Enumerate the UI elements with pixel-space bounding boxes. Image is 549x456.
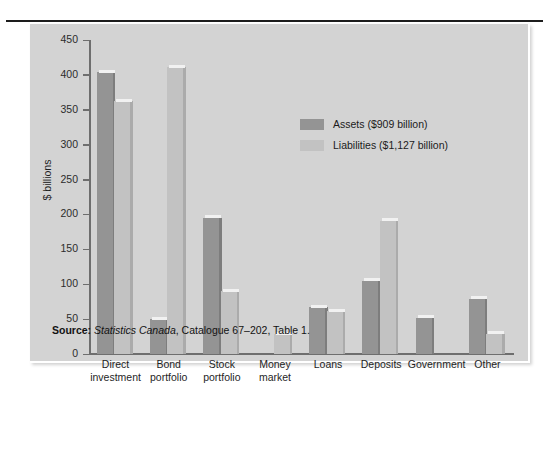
bar-liabilities <box>114 101 130 354</box>
y-tick-label: 250 <box>30 174 78 184</box>
bar-face <box>469 299 485 354</box>
bar-liabilities <box>274 334 290 354</box>
y-tick-label: 200 <box>30 208 78 218</box>
bar-top-3d <box>116 99 132 102</box>
bar-group <box>89 40 142 354</box>
bar-assets <box>256 353 272 354</box>
bar-liabilities <box>221 291 237 354</box>
bar-face <box>380 221 396 354</box>
top-horizontal-rule <box>6 20 543 22</box>
bar-face <box>362 281 378 354</box>
y-tick-label: 400 <box>30 69 78 79</box>
source-publisher: Statistics Canada <box>94 324 176 336</box>
x-category-label: Loans <box>302 358 355 371</box>
bar-top-3d <box>382 218 398 221</box>
source-rest: , Catalogue 67–202, Table 1. <box>176 324 310 336</box>
bar-group <box>142 40 195 354</box>
y-tick-label: 100 <box>30 278 78 288</box>
bar-top-3d <box>488 331 504 334</box>
bar-top-3d <box>418 315 434 318</box>
bar-liabilities <box>167 67 183 354</box>
x-category-line1: Bond <box>142 358 195 371</box>
y-tick-label: 450 <box>30 34 78 44</box>
source-label: Source: <box>52 324 91 336</box>
bar-top-3d <box>223 289 239 292</box>
y-tick-label: 50 <box>30 313 78 323</box>
bar-liabilities <box>327 311 343 354</box>
bar-side-3d <box>343 311 346 354</box>
bar-side-3d <box>183 67 186 354</box>
x-category-label: Directinvestment <box>89 358 142 383</box>
bar-assets <box>469 299 485 354</box>
bar-face <box>486 334 502 354</box>
legend-label-assets: Assets ($909 billion) <box>333 118 428 130</box>
y-axis-title: $ billions <box>41 135 53 225</box>
x-axis-category-labels: DirectinvestmentBondportfolioStockportfo… <box>89 358 514 388</box>
bar-group <box>461 40 514 354</box>
x-category-label: Government <box>408 358 461 371</box>
chart-panel: 050100150200250300350400450 $ billions D… <box>30 24 528 361</box>
bar-face <box>416 318 432 354</box>
bar-assets <box>97 72 113 354</box>
x-category-line1: Stock <box>195 358 248 371</box>
bar-liabilities <box>380 221 396 354</box>
x-category-line1: Direct <box>89 358 142 371</box>
legend-swatch-liabilities <box>300 140 324 151</box>
bar-top-3d <box>169 65 185 68</box>
bar-side-3d <box>237 291 240 354</box>
bar-side-3d <box>130 101 133 354</box>
bar-group <box>355 40 408 354</box>
x-category-label: Stockportfolio <box>195 358 248 383</box>
bar-side-3d <box>290 334 293 354</box>
bar-liabilities <box>486 334 502 354</box>
bar-group <box>248 40 301 354</box>
x-category-line1: Money <box>248 358 301 371</box>
bar-face <box>221 291 237 354</box>
x-category-line2: market <box>248 371 301 384</box>
bar-top-3d <box>471 296 487 299</box>
x-category-line1: Loans <box>302 358 355 371</box>
bar-side-3d <box>396 221 399 354</box>
x-category-line2: investment <box>89 371 142 384</box>
plot-area: 050100150200250300350400450 $ billions D… <box>30 24 528 361</box>
x-category-label: Moneymarket <box>248 358 301 383</box>
x-category-line1: Government <box>408 358 461 371</box>
bar-assets <box>362 281 378 354</box>
y-tick-label: 350 <box>30 104 78 114</box>
bar-group <box>408 40 461 354</box>
bar-face <box>97 72 113 354</box>
bar-group <box>195 40 248 354</box>
bar-top-3d <box>311 305 327 308</box>
bar-face <box>274 334 290 354</box>
bar-side-3d <box>502 334 505 354</box>
bar-group <box>302 40 355 354</box>
source-note: Source: Statistics Canada, Catalogue 67–… <box>52 324 310 336</box>
legend-label-liabilities: Liabilities ($1,127 billion) <box>333 139 448 151</box>
bar-assets <box>309 307 325 354</box>
bar-top-3d <box>329 309 345 312</box>
bar-assets <box>416 318 432 354</box>
bar-top-3d <box>152 317 168 320</box>
x-category-label: Deposits <box>355 358 408 371</box>
x-category-line2: portfolio <box>142 371 195 384</box>
figure-container: 050100150200250300350400450 $ billions D… <box>0 0 549 456</box>
bar-top-3d <box>205 215 221 218</box>
y-tick-label: 0 <box>30 348 78 358</box>
x-category-line2: portfolio <box>195 371 248 384</box>
bar-face <box>167 67 183 354</box>
legend: Assets ($909 billion) Liabilities ($1,12… <box>300 118 448 160</box>
x-category-line1: Deposits <box>355 358 408 371</box>
legend-swatch-assets <box>300 119 324 130</box>
x-category-label: Bondportfolio <box>142 358 195 383</box>
bar-face <box>309 307 325 354</box>
x-category-label: Other <box>461 358 514 371</box>
y-tick-label: 150 <box>30 243 78 253</box>
y-tick-label: 300 <box>30 139 78 149</box>
x-category-line1: Other <box>461 358 514 371</box>
legend-item-assets: Assets ($909 billion) <box>300 118 448 130</box>
bar-side-3d <box>432 318 435 354</box>
bar-face <box>114 101 130 354</box>
bar-top-3d <box>99 70 115 73</box>
bar-face <box>327 311 343 354</box>
bar-top-3d <box>364 278 380 281</box>
